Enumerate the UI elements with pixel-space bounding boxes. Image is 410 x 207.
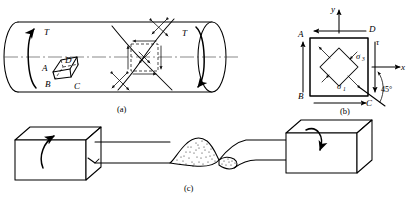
axis-label-x: x (400, 62, 405, 72)
sigma-3-label: σ (356, 51, 361, 61)
caption-a: (a) (117, 104, 127, 114)
tau-label: τ (376, 37, 380, 47)
panel-a-group: T T A B C D (4, 19, 240, 114)
fracture-surface (170, 138, 237, 169)
element-label-c: C (74, 81, 81, 91)
corner-label-b: B (298, 91, 304, 101)
caption-b: (b) (340, 106, 350, 116)
element-label-a: A (41, 63, 48, 73)
angle-label-45: 45° (381, 85, 392, 94)
axis-label-y: y (330, 4, 335, 14)
right-grip-block (286, 120, 372, 173)
crack-direction-arrows (112, 20, 168, 90)
helical-crack-curves (112, 19, 174, 90)
stress-element-panel-a (128, 41, 161, 74)
torque-label-right: T (182, 28, 188, 38)
torsion-figure-svg: T T A B C D (0, 0, 410, 207)
torque-label-left: T (44, 27, 50, 37)
sigma-3-label-group: σ 3 (356, 51, 365, 62)
element-label-d: D (64, 55, 72, 65)
caption-c: (c) (184, 183, 194, 193)
sigma-3-subscript: 3 (361, 56, 365, 62)
outer-shear-arrows (303, 31, 375, 103)
sigma-1-label-group: σ 1 (337, 81, 346, 92)
panel-c-group: (c) (15, 120, 372, 193)
sigma-1-label: σ (337, 81, 342, 91)
torque-arrow-left (28, 29, 36, 88)
left-grip-block (15, 127, 101, 180)
panel-b-group: y x (297, 4, 405, 116)
sigma-1-subscript: 1 (343, 86, 346, 92)
corner-label-a: A (297, 29, 304, 39)
figure-root: T T A B C D (0, 0, 410, 207)
corner-label-c: C (366, 98, 373, 108)
element-label-b: B (45, 79, 51, 89)
corner-label-d: D (368, 24, 376, 34)
